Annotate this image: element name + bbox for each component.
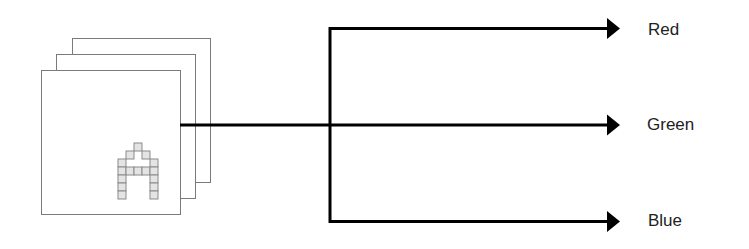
output-label-red: Red — [648, 21, 679, 38]
output-label-blue: Blue — [648, 212, 682, 229]
arrowhead-blue-icon — [607, 211, 620, 232]
glyph-cell — [134, 143, 142, 151]
glyph-cell — [118, 167, 126, 175]
glyph-cell — [142, 167, 150, 175]
glyph-cell — [150, 159, 158, 167]
glyph-cell — [126, 151, 134, 159]
output-label-green: Green — [647, 116, 694, 133]
glyph-cell — [118, 191, 126, 199]
glyph-cell — [118, 183, 126, 191]
glyph-cell — [126, 167, 134, 175]
arrowheads — [607, 18, 620, 232]
connector-lines — [180, 29, 609, 222]
pixel-letter-a-icon — [118, 143, 158, 199]
glyph-cell — [134, 167, 142, 175]
glyph-cell — [118, 175, 126, 183]
glyph-cell — [150, 191, 158, 199]
split-diagram — [0, 0, 749, 249]
glyph-cell — [150, 167, 158, 175]
arrowhead-red-icon — [607, 18, 620, 39]
glyph-cell — [150, 183, 158, 191]
arrowhead-green-icon — [607, 115, 620, 136]
glyph-cell — [142, 151, 150, 159]
glyph-cell — [118, 159, 126, 167]
glyph-cell — [150, 175, 158, 183]
